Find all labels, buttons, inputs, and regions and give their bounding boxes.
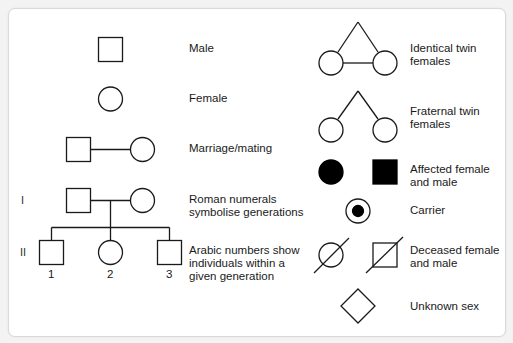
label-male: Male (189, 42, 214, 55)
label-roman-line-1: Roman numerals (189, 193, 303, 206)
label-female: Female (189, 92, 227, 105)
label-marriage: Marriage/mating (189, 142, 272, 155)
marriage-icon (67, 138, 155, 162)
label-deceased-line-1: Deceased female (410, 244, 500, 257)
fraternal-twins-icon (319, 91, 397, 142)
label-fraternal-line-1: Fraternal twin (410, 105, 480, 118)
individual-2-label: 2 (107, 268, 113, 280)
label-identical-twins: Identical twin females (410, 42, 476, 68)
label-identical-line-1: Identical twin (410, 42, 476, 55)
affected-male-icon (373, 160, 397, 184)
label-deceased-line-2: and male (410, 257, 500, 270)
label-affected: Affected female and male (410, 163, 490, 189)
label-roman-numerals: Roman numerals symbolise generations (189, 193, 303, 219)
identical-twins-icon (319, 22, 397, 75)
label-identical-line-2: females (410, 55, 476, 68)
generation-i-couple-icon (52, 189, 170, 241)
deceased-male-icon (366, 237, 403, 273)
generation-i-label: I (21, 194, 24, 206)
label-deceased: Deceased female and male (410, 244, 500, 270)
label-affected-line-2: and male (410, 176, 490, 189)
individual-1-label: 1 (48, 268, 54, 280)
label-fraternal-line-2: females (410, 118, 480, 131)
label-arabic-numbers: Arabic numbers show individuals within a… (189, 244, 300, 283)
carrier-icon (346, 199, 370, 223)
label-arabic-line-2: individuals within a (189, 257, 300, 270)
affected-female-icon (319, 160, 343, 184)
label-affected-line-1: Affected female (410, 163, 490, 176)
label-fraternal-twins: Fraternal twin females (410, 105, 480, 131)
label-carrier: Carrier (410, 204, 445, 217)
label-roman-line-2: symbolise generations (189, 206, 303, 219)
female-circle-icon (99, 87, 123, 111)
label-arabic-line-3: given generation (189, 270, 300, 283)
male-square-icon (99, 38, 123, 62)
deceased-female-icon (314, 238, 349, 273)
individual-3-label: 3 (166, 268, 172, 280)
label-arabic-line-1: Arabic numbers show (189, 244, 300, 257)
label-unknown-sex: Unknown sex (410, 300, 479, 313)
generation-ii-label: II (20, 246, 26, 258)
generation-ii-children-icon (40, 241, 182, 265)
unknown-sex-diamond-icon (341, 289, 375, 323)
